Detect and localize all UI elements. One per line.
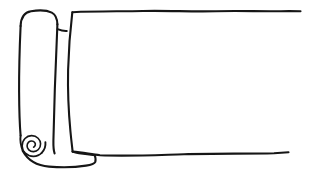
scroll-drawing bbox=[0, 0, 309, 178]
paper-background bbox=[0, 0, 309, 178]
sheet-top-edge bbox=[73, 11, 301, 12]
illustration-canvas bbox=[0, 0, 309, 178]
